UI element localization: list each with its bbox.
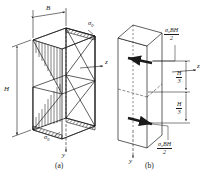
axis-label-y-a: y <box>62 152 65 159</box>
dimension-H <box>12 40 31 137</box>
axis-label-y-b: y <box>129 158 132 165</box>
force-bottom-numerator: σ₀BH <box>157 141 172 147</box>
panel-b-geometry <box>118 25 162 148</box>
force-top-numerator: σ₀BH <box>164 27 179 33</box>
force-label-top: σ₀BH 2 <box>164 25 179 42</box>
figure-container: B H z y σ0 σ0 σ₀BH 2 σ₀BH 2 H 3 H 3 z y … <box>0 0 206 177</box>
lever-upper-numerator: H <box>176 70 182 76</box>
axis-z-a <box>80 66 103 68</box>
lever-lower-numerator: H <box>176 101 182 107</box>
lever-lower-denominator: 3 <box>176 109 182 115</box>
lever-upper-denominator: 3 <box>176 78 182 84</box>
dimension-lever-arms <box>148 61 190 123</box>
force-top-denominator: 2 <box>164 35 179 41</box>
caption-b: (b) <box>145 162 154 170</box>
dimension-label-H: H <box>4 86 9 93</box>
force-bottom-denominator: 2 <box>157 149 172 155</box>
axis-label-z-a: z <box>105 59 108 66</box>
stress-label-sigma-bottom: σ0 <box>44 134 49 141</box>
stress-label-sigma-top: σ0 <box>88 20 93 27</box>
leader-force-top <box>153 45 175 61</box>
dimension-label-B: B <box>46 5 50 12</box>
caption-a: (a) <box>55 162 63 170</box>
axis-label-z-b: z <box>197 63 200 70</box>
lever-arm-label-lower: H 3 <box>176 99 182 116</box>
leader-force-bottom <box>152 124 168 140</box>
leader-sigma-top <box>88 30 93 34</box>
lever-arm-label-upper: H 3 <box>176 68 182 85</box>
stress-band-bottom <box>66 118 95 130</box>
force-label-bottom: σ₀BH 2 <box>157 139 172 156</box>
